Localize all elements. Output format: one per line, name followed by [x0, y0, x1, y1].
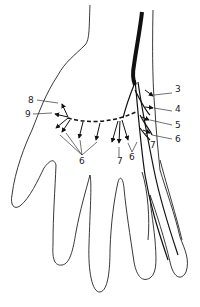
- radial-artery: [133, 12, 142, 85]
- label-7-right: 7: [150, 141, 156, 150]
- palmar-arch: [68, 112, 136, 122]
- label-6-right: 6: [175, 135, 181, 144]
- hand-vascular-diagram: 3 4 5 6 7 8 9 6 7 6: [0, 0, 200, 307]
- label-7-middle: 7: [117, 157, 123, 166]
- label-6-left: 6: [79, 157, 85, 166]
- hand-outline: [11, 5, 187, 292]
- vessel-branches: [123, 80, 178, 260]
- label-3: 3: [175, 85, 181, 94]
- hand-outline-and-vessels: [0, 0, 200, 307]
- label-5: 5: [175, 121, 181, 130]
- label-8: 8: [28, 96, 34, 105]
- label-9: 9: [25, 110, 31, 119]
- label-4: 4: [175, 105, 181, 114]
- label-6-middle: 6: [129, 153, 135, 162]
